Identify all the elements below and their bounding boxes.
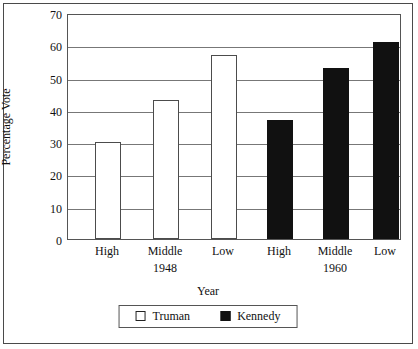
y-axis-tick-label: 10 [50,203,62,215]
x-axis-tick-label: High [267,245,291,257]
bar-truman-high [95,142,121,239]
bar-kennedy-low [373,42,399,239]
plot-area: 010203040506070 [67,14,401,240]
bar-kennedy-middle [323,68,349,239]
legend-label-truman: Truman [153,310,191,322]
x-axis-title: Year [4,285,412,297]
legend-item-truman: Truman [136,310,191,322]
y-axis-tick-label: 70 [50,9,62,21]
gridline [68,47,400,48]
legend-label-kennedy: Kennedy [237,310,280,322]
y-axis-tick-label: 40 [50,106,62,118]
y-axis-tick-label: 20 [50,170,62,182]
bar-kennedy-high [267,120,293,239]
y-axis-tick-label: 60 [50,41,62,53]
x-axis-group-label: 1948 [153,262,177,274]
bar-truman-low [211,55,237,239]
legend-swatch-kennedy-icon [220,311,230,321]
y-axis-tick-label: 30 [50,138,62,150]
bar-truman-middle [153,100,179,239]
legend-swatch-truman-icon [136,311,146,321]
y-axis-tick-label: 0 [56,235,62,247]
chart-legend: Truman Kennedy [119,305,298,328]
y-axis-tick-label: 50 [50,74,62,86]
x-axis-tick-label: High [95,245,119,257]
x-axis-group-label: 1960 [323,262,347,274]
x-axis-tick-label: Low [212,245,234,257]
x-axis-tick-label: Middle [318,245,353,257]
legend-item-kennedy: Kennedy [220,310,280,322]
y-axis-title: Percentage Vote [0,88,12,165]
x-axis-tick-label: Low [374,245,396,257]
chart-figure: Percentage Vote 010203040506070 Year Tru… [3,3,413,344]
x-axis-tick-label: Middle [148,245,183,257]
